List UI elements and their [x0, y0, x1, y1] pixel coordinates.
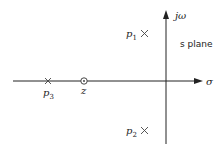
pole-p1-label: p1	[126, 28, 137, 42]
zero-dot-icon	[83, 80, 85, 82]
pole-cross-icon	[141, 30, 148, 37]
pole-p2: p2	[126, 125, 148, 139]
pole-p2-label: p2	[126, 125, 137, 139]
imaginary-axis-label: jω	[173, 10, 186, 21]
s-plane-diagram: jω σ s plane p1 p2 p3 z	[0, 0, 220, 150]
pole-p3-label: p3	[43, 87, 54, 101]
zero-z: z	[80, 78, 87, 96]
real-axis-arrow-icon	[194, 78, 203, 84]
zero-z-label: z	[80, 85, 87, 96]
pole-p1: p1	[126, 28, 148, 42]
pole-cross-icon	[141, 127, 148, 134]
real-axis-label: σ	[206, 76, 214, 87]
imaginary-axis-arrow-icon	[163, 10, 169, 19]
plane-label: s plane	[180, 39, 213, 49]
